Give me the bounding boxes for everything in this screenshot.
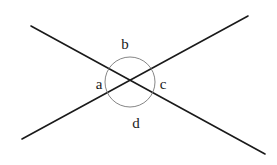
angle-label-d: d	[132, 115, 140, 131]
diagram-svg: a b c d	[0, 0, 277, 165]
angle-label-b: b	[121, 36, 129, 52]
diagram-canvas: a b c d	[0, 0, 277, 165]
line-1	[31, 26, 265, 154]
angle-label-c: c	[160, 76, 167, 92]
angle-label-a: a	[96, 76, 103, 92]
angle-circle	[105, 57, 155, 107]
